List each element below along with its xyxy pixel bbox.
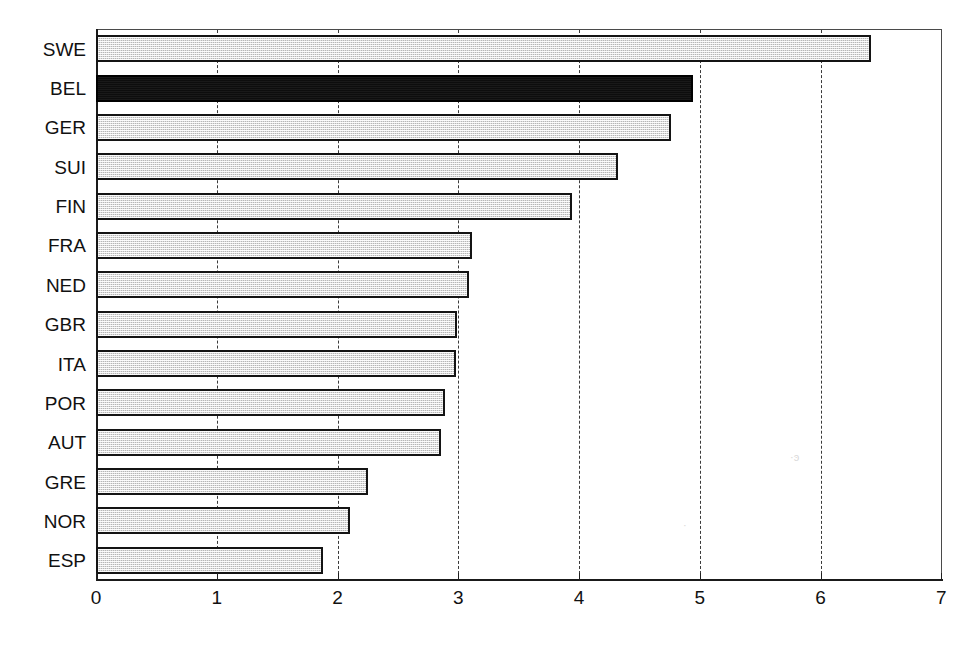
x-tick-label: 5 bbox=[680, 586, 720, 609]
x-tick-label: 4 bbox=[559, 586, 599, 609]
x-tick-label: 6 bbox=[801, 586, 841, 609]
category-label-swe: SWE bbox=[0, 40, 86, 59]
bar-fin bbox=[96, 193, 572, 220]
scan-speckle: · bbox=[683, 520, 687, 531]
tick-mark-2 bbox=[338, 573, 339, 581]
category-label-gbr: GBR bbox=[0, 315, 86, 334]
bar-ita bbox=[96, 350, 456, 377]
tick-mark-4 bbox=[579, 573, 580, 581]
bar-bel bbox=[96, 75, 693, 102]
category-label-esp: ESP bbox=[0, 551, 86, 570]
y-axis-line bbox=[96, 29, 98, 581]
category-label-ita: ITA bbox=[0, 355, 86, 374]
x-tick-label: 7 bbox=[921, 586, 961, 609]
x-tick-label: 0 bbox=[76, 586, 116, 609]
category-label-ned: NED bbox=[0, 276, 86, 295]
category-label-nor: NOR bbox=[0, 512, 86, 531]
category-label-fra: FRA bbox=[0, 236, 86, 255]
bar-swe bbox=[96, 35, 871, 62]
gridline-1 bbox=[217, 30, 218, 579]
bar-chart: 01234567 SWEBELGERSUIFINFRANEDGBRITAPORA… bbox=[0, 0, 973, 646]
bar-aut bbox=[96, 429, 441, 456]
x-tick-label: 2 bbox=[318, 586, 358, 609]
bar-ger bbox=[96, 114, 671, 141]
x-axis-line bbox=[96, 579, 943, 581]
bar-sui bbox=[96, 153, 618, 180]
gridline-5 bbox=[700, 30, 701, 579]
plot-area bbox=[96, 29, 942, 580]
category-label-por: POR bbox=[0, 394, 86, 413]
bar-esp bbox=[96, 547, 323, 574]
category-label-fin: FIN bbox=[0, 197, 86, 216]
bar-gre bbox=[96, 468, 368, 495]
category-label-aut: AUT bbox=[0, 433, 86, 452]
bar-fra bbox=[96, 232, 472, 259]
category-label-sui: SUI bbox=[0, 158, 86, 177]
bar-gbr bbox=[96, 311, 457, 338]
x-tick-label: 1 bbox=[197, 586, 237, 609]
bar-nor bbox=[96, 507, 350, 534]
category-label-gre: GRE bbox=[0, 473, 86, 492]
tick-mark-0 bbox=[96, 573, 97, 581]
gridline-4 bbox=[579, 30, 580, 579]
gridline-6 bbox=[821, 30, 822, 579]
gridline-2 bbox=[338, 30, 339, 579]
tick-mark-1 bbox=[217, 573, 218, 581]
x-tick-label: 3 bbox=[438, 586, 478, 609]
category-label-bel: BEL bbox=[0, 79, 86, 98]
tick-mark-5 bbox=[700, 573, 701, 581]
category-label-ger: GER bbox=[0, 118, 86, 137]
tick-mark-3 bbox=[458, 573, 459, 581]
bar-por bbox=[96, 389, 445, 416]
tick-mark-7 bbox=[941, 573, 942, 581]
scan-speckle: ·ͽ bbox=[790, 452, 799, 463]
tick-mark-6 bbox=[821, 573, 822, 581]
gridline-3 bbox=[458, 30, 459, 579]
bar-ned bbox=[96, 271, 469, 298]
